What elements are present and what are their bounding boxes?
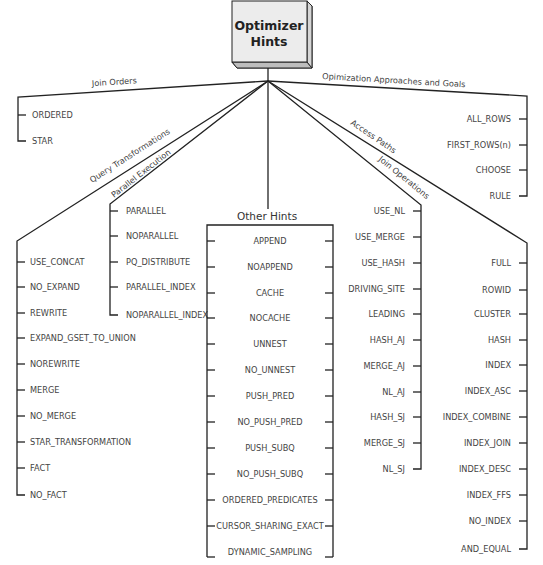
hint-item: ALL_ROWS bbox=[467, 114, 511, 124]
hint-item: FULL bbox=[491, 258, 511, 268]
optimizer-hints-diagram: Optimizer Hints Join Orders ORDERED STAR… bbox=[0, 0, 543, 565]
root-node: Optimizer Hints bbox=[232, 1, 312, 68]
hint-item: PQ_DISTRIBUTE bbox=[126, 257, 190, 267]
hint-item: CLUSTER bbox=[474, 309, 511, 319]
group-parallel-execution: Parallel Execution PARALLEL NOPARALLEL P… bbox=[109, 81, 268, 320]
group-label: Other Hints bbox=[237, 210, 297, 222]
hint-item: RULE bbox=[490, 191, 511, 201]
hint-item: DYNAMIC_SAMPLING bbox=[228, 547, 312, 557]
hint-item: NOPARALLEL_INDEX bbox=[126, 310, 209, 320]
hint-item: AND_EQUAL bbox=[461, 544, 511, 554]
hint-item: NOPARALLEL bbox=[126, 231, 179, 241]
group-label: Join Operations bbox=[376, 153, 432, 201]
hint-item: USE_NL bbox=[374, 206, 406, 216]
hint-item: HASH_AJ bbox=[370, 335, 405, 345]
hint-item: REWRITE bbox=[30, 308, 67, 318]
hint-item: APPEND bbox=[253, 236, 286, 246]
hint-item: MERGE_SJ bbox=[364, 438, 405, 448]
hint-item: NL_SJ bbox=[383, 464, 405, 474]
hint-item: USE_CONCAT bbox=[30, 257, 85, 267]
group-label: Parallel Execution bbox=[109, 147, 172, 200]
hint-item: ROWID bbox=[482, 285, 511, 295]
hint-item: NO_INDEX bbox=[469, 516, 512, 526]
hint-item: DRIVING_SITE bbox=[348, 284, 405, 294]
hint-item: INDEX bbox=[485, 360, 511, 370]
hint-item: UNNEST bbox=[253, 339, 288, 349]
hint-item: CACHE bbox=[256, 288, 284, 298]
hint-item: CHOOSE bbox=[476, 165, 511, 175]
root-title-line1: Optimizer bbox=[234, 18, 304, 33]
hint-item: INDEX_COMBINE bbox=[443, 412, 511, 422]
group-join-operations: Join Operations USE_NL USE_MERGE USE_HAS… bbox=[268, 81, 432, 474]
other-hints-ticks bbox=[207, 241, 333, 526]
hint-item: NO_PUSH_SUBQ bbox=[237, 469, 303, 479]
hint-item: USE_MERGE bbox=[355, 232, 405, 242]
hint-item: NO_PUSH_PRED bbox=[237, 417, 302, 427]
hint-item: INDEX_FFS bbox=[467, 490, 511, 500]
hint-item: MERGE_AJ bbox=[363, 361, 405, 371]
hint-item: INDEX_JOIN bbox=[464, 438, 511, 448]
hint-item: NO_EXPAND bbox=[30, 282, 80, 292]
hint-item: NO_MERGE bbox=[30, 411, 76, 421]
hint-item: HASH_SJ bbox=[370, 412, 405, 422]
hint-item: ORDERED_PREDICATES bbox=[222, 495, 317, 505]
hint-item: STAR bbox=[32, 136, 53, 146]
root-title-line2: Hints bbox=[250, 34, 287, 49]
hint-item: NOCACHE bbox=[250, 313, 291, 323]
group-label: Join Orders bbox=[91, 75, 138, 88]
hint-item: PARALLEL_INDEX bbox=[126, 282, 196, 292]
hint-item: NOREWRITE bbox=[30, 359, 80, 369]
group-label: Opimization Approaches and Goals bbox=[322, 71, 466, 89]
hint-item: HASH bbox=[488, 335, 511, 345]
hint-item: EXPAND_GSET_TO_UNION bbox=[30, 333, 136, 343]
hint-item: NO_UNNEST bbox=[245, 365, 296, 375]
hint-item: ORDERED bbox=[32, 110, 73, 120]
hint-item: CURSOR_SHARING_EXACT bbox=[216, 521, 324, 531]
hint-item: NOAPPEND bbox=[247, 262, 293, 272]
hint-item: PUSH_PRED bbox=[246, 391, 294, 401]
hint-item: FACT bbox=[30, 463, 51, 473]
hint-item: NL_AJ bbox=[382, 387, 405, 397]
hint-item: PUSH_SUBQ bbox=[245, 443, 295, 453]
hint-item: INDEX_ASC bbox=[465, 386, 512, 396]
hint-item: LEADING bbox=[368, 309, 405, 319]
hint-item: STAR_TRANSFORMATION bbox=[30, 437, 131, 447]
hint-item: MERGE bbox=[30, 385, 59, 395]
group-optimization-approaches: Opimization Approaches and Goals ALL_ROW… bbox=[268, 71, 527, 201]
hint-item: INDEX_DESC bbox=[459, 464, 511, 474]
hint-item: FIRST_ROWS(n) bbox=[447, 140, 511, 150]
group-other-hints: Other Hints APPEND NOAPPEND CACHE NOCACH… bbox=[207, 81, 333, 557]
hint-item: PARALLEL bbox=[126, 206, 166, 216]
hint-item: NO_FACT bbox=[30, 490, 68, 500]
hint-item: USE_HASH bbox=[361, 258, 405, 268]
